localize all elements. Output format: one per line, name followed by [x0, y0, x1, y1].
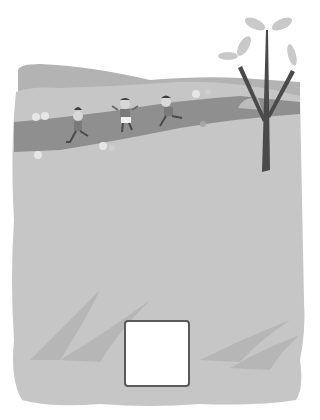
answer-box[interactable]: [124, 320, 190, 387]
